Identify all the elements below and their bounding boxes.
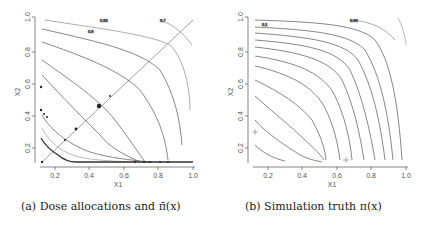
svg-text:X2: X2 xyxy=(227,88,234,97)
svg-text:0.99: 0.99 xyxy=(350,18,359,23)
svg-text:0.8: 0.8 xyxy=(366,172,376,179)
svg-text:X1: X1 xyxy=(114,181,123,188)
svg-text:0.2: 0.2 xyxy=(263,172,273,179)
points-a xyxy=(40,86,169,163)
svg-text:0.6: 0.6 xyxy=(332,172,342,179)
svg-text:0.8: 0.8 xyxy=(237,47,244,57)
svg-text:1.0: 1.0 xyxy=(237,12,244,22)
caption-a: (a) Dose allocations and π̄(x) xyxy=(21,200,181,213)
markers-b xyxy=(252,129,349,163)
svg-text:0.4: 0.4 xyxy=(24,111,31,121)
svg-text:0.9: 0.9 xyxy=(88,29,94,34)
svg-text:0.8: 0.8 xyxy=(24,47,31,57)
figure: 0.95 0.9 0.7 1.0 0.8 0.6 0.4 0.2 0.2 0.4… xyxy=(0,0,424,229)
svg-text:0.4: 0.4 xyxy=(237,111,244,121)
svg-text:X1: X1 xyxy=(328,181,337,188)
svg-text:X2: X2 xyxy=(14,88,21,97)
panel-b: 0.1 0.99 xyxy=(245,17,408,170)
svg-text:0.6: 0.6 xyxy=(119,172,129,179)
svg-text:0.7: 0.7 xyxy=(160,18,166,23)
panel-a: 0.95 0.9 0.7 xyxy=(32,17,195,170)
svg-text:0.4: 0.4 xyxy=(297,172,307,179)
svg-text:0.4: 0.4 xyxy=(84,172,94,179)
svg-text:0.2: 0.2 xyxy=(50,172,60,179)
svg-text:0.6: 0.6 xyxy=(24,79,31,89)
svg-text:1.0: 1.0 xyxy=(401,172,411,179)
svg-text:0.1: 0.1 xyxy=(262,22,268,27)
svg-text:0.95: 0.95 xyxy=(100,18,109,23)
svg-text:0.2: 0.2 xyxy=(237,143,244,153)
caption-b: (b) Simulation truth π(x) xyxy=(245,200,382,213)
svg-text:0.6: 0.6 xyxy=(237,79,244,89)
svg-text:1.0: 1.0 xyxy=(24,12,31,22)
svg-text:0.8: 0.8 xyxy=(153,172,163,179)
svg-text:0.2: 0.2 xyxy=(24,143,31,153)
svg-text:1.0: 1.0 xyxy=(188,172,198,179)
